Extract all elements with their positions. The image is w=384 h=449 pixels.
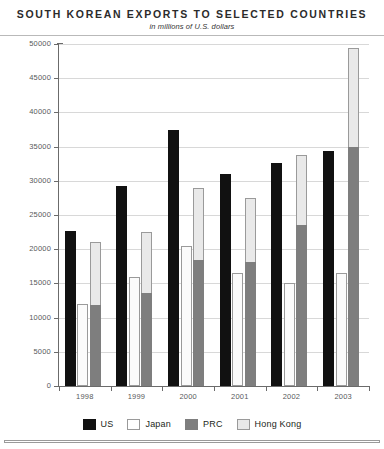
- bar-us: [220, 174, 231, 386]
- legend-swatch-hk: [237, 419, 250, 430]
- bar-group: [162, 44, 214, 386]
- y-axis-label: 50000: [3, 39, 51, 48]
- y-axis-label: 0: [3, 381, 51, 390]
- bar-us: [323, 151, 334, 386]
- legend-swatch-us: [83, 419, 96, 430]
- y-axis-label: 5000: [3, 347, 51, 356]
- y-axis-label: 20000: [3, 244, 51, 253]
- bar-japan: [129, 277, 140, 386]
- bar-us: [168, 130, 179, 387]
- plot-area: 0500010000150002000025000300003500040000…: [58, 44, 369, 387]
- x-axis-label: 2003: [313, 392, 373, 401]
- chart-subtitle: in millions of U.S. dollars: [0, 20, 384, 31]
- bar-prc: [90, 305, 101, 386]
- legend-item: PRC: [185, 419, 223, 430]
- bar-prc: [296, 225, 307, 386]
- bar-japan: [232, 273, 243, 386]
- bar-group: [317, 44, 369, 386]
- y-axis-label: 35000: [3, 142, 51, 151]
- chart-page: SOUTH KOREAN EXPORTS TO SELECTED COUNTRI…: [0, 0, 384, 449]
- y-axis-label: 15000: [3, 278, 51, 287]
- bottom-rule: [4, 440, 380, 443]
- legend-label: Hong Kong: [255, 419, 302, 429]
- bar-japan: [336, 273, 347, 386]
- legend-swatch-japan: [127, 419, 140, 430]
- legend-label: US: [101, 419, 114, 429]
- bar-prc: [193, 260, 204, 386]
- bar-prc: [141, 293, 152, 386]
- x-axis-tick: [162, 386, 163, 391]
- legend-label: PRC: [203, 419, 223, 429]
- x-axis-tick: [266, 386, 267, 391]
- y-axis-label: 40000: [3, 107, 51, 116]
- chart-header: SOUTH KOREAN EXPORTS TO SELECTED COUNTRI…: [0, 0, 384, 36]
- x-axis-tick: [317, 386, 318, 391]
- x-axis-tick: [369, 386, 370, 391]
- chart-legend: USJapanPRCHong Kong: [0, 412, 384, 436]
- bar-japan: [77, 304, 88, 386]
- x-axis-tick: [214, 386, 215, 391]
- bar-group: [59, 44, 111, 386]
- legend-label: Japan: [145, 419, 171, 429]
- x-axis-tick: [111, 386, 112, 391]
- bar-group: [266, 44, 318, 386]
- bar-prc: [245, 262, 256, 386]
- bar-us: [65, 231, 76, 386]
- bar-japan: [181, 246, 192, 386]
- bar-prc: [348, 147, 359, 386]
- y-axis-label: 25000: [3, 210, 51, 219]
- y-axis-label: 10000: [3, 313, 51, 322]
- y-axis-label: 45000: [3, 73, 51, 82]
- legend-item: Hong Kong: [237, 419, 302, 430]
- legend-item: US: [83, 419, 114, 430]
- y-axis-label: 30000: [3, 176, 51, 185]
- legend-swatch-prc: [185, 419, 198, 430]
- bar-group: [111, 44, 163, 386]
- bar-us: [271, 163, 282, 386]
- legend-item: Japan: [127, 419, 171, 430]
- chart-title: SOUTH KOREAN EXPORTS TO SELECTED COUNTRI…: [0, 0, 384, 20]
- plot-wrapper: 0500010000150002000025000300003500040000…: [0, 36, 384, 408]
- bar-group: [214, 44, 266, 386]
- bar-japan: [284, 283, 295, 386]
- x-axis-tick: [59, 386, 60, 391]
- bar-us: [116, 186, 127, 386]
